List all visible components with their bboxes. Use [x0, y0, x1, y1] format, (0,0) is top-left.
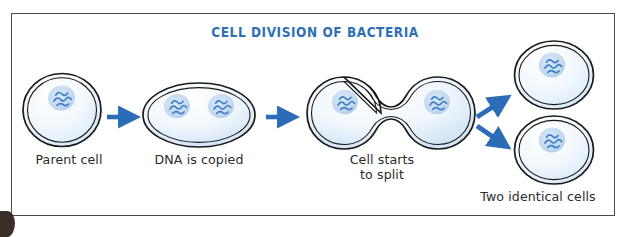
stage-2-label: DNA is copied [124, 152, 274, 167]
figure-root: CELL DIVISION OF BACTERIA [0, 0, 630, 237]
stage-3-label: Cell starts to split [312, 152, 452, 182]
figure-frame [11, 13, 615, 216]
page-edge-artifact [0, 211, 15, 237]
figure-title: CELL DIVISION OF BACTERIA [22, 24, 608, 40]
stage-1-label: Parent cell [14, 152, 124, 167]
stage-4-label: Two identical cells [452, 189, 624, 204]
